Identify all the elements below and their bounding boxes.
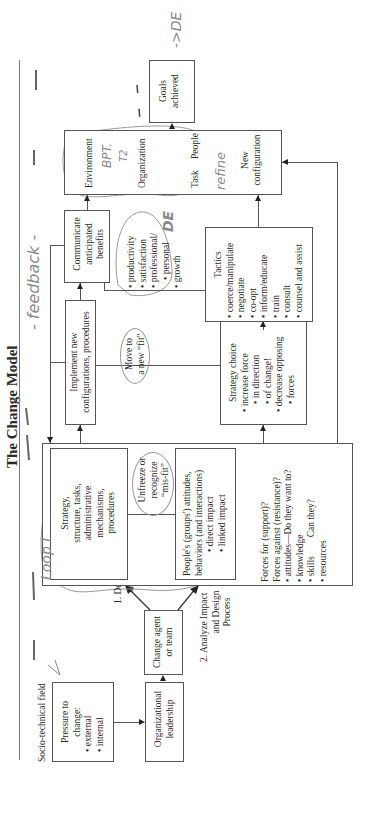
bpt-note: BPT. [100,143,114,168]
goals-text: Goals achieved [158,70,181,112]
implement-text: Implement new configurations, procedures [69,306,92,418]
bpt-sub-note: T2 [118,150,129,162]
task-label: Task [190,170,202,188]
people-label: People [190,133,202,159]
feedback-note: - feedback - [24,235,43,330]
org-label: Organization [137,139,149,188]
move-fit-text: Move to a new “fit” [124,330,147,378]
loop-note: Loop I [38,538,54,580]
unfreeze-text: Unfreeze or recognize “mis-fit” [137,452,172,508]
forces-text: Forces for (support)? Forces against (re… [260,442,329,582]
new-config-text: New configuration [240,130,263,190]
communicate-text: Communicate anticipated benefits [72,211,107,277]
tactics-text: Tactics coerce/manipulate negotiate co-o… [213,226,305,318]
people-text: People's (groups') attitudes, behaviors … [182,450,228,576]
refine-note: refine [213,152,228,190]
env-label: Environment [84,138,96,188]
goals-note: ->DE [168,12,184,48]
strategy-text: Strategy, structure, tasks, administrati… [60,468,118,558]
de-note: DE [160,211,176,232]
